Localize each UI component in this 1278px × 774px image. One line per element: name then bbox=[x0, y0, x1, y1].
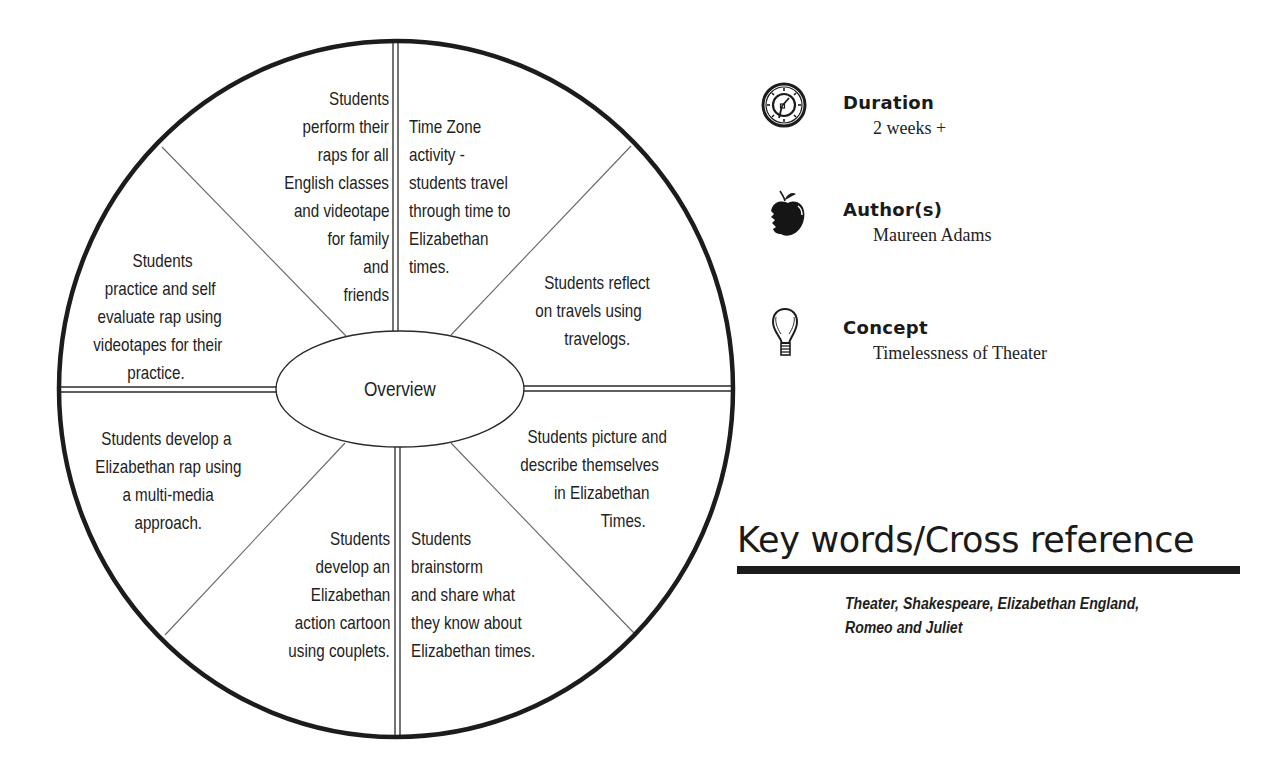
apple-icon bbox=[758, 187, 818, 247]
segment-text-line: action cartoon bbox=[130, 612, 390, 634]
segment-text-line: and share what bbox=[411, 584, 541, 606]
compass-clock-icon bbox=[758, 80, 818, 140]
segment-text-line: students travel bbox=[409, 172, 533, 194]
segment-text-line: times. bbox=[409, 256, 460, 278]
segment-text-line: Students reflect bbox=[467, 272, 727, 294]
segment-text-line: evaluate rap using bbox=[30, 306, 290, 328]
info-concept: Concept Timelessness of Theater bbox=[758, 305, 1178, 375]
segment-text-line: they know about bbox=[411, 612, 549, 634]
segment-text-line: Time Zone bbox=[409, 116, 499, 138]
segment-text-line: Students bbox=[129, 88, 389, 110]
segment-text-line: videotapes for their bbox=[28, 334, 288, 356]
segment-text-line: practice and self bbox=[30, 278, 290, 300]
segment-text-line: Elizabethan bbox=[130, 584, 390, 606]
concept-label: Concept bbox=[843, 317, 928, 338]
segment-text-line: English classes bbox=[129, 172, 389, 194]
segment-text-line: brainstorm bbox=[411, 556, 501, 578]
lightbulb-icon bbox=[758, 305, 818, 365]
duration-value: 2 weeks + bbox=[873, 118, 946, 139]
info-duration: Duration 2 weeks + bbox=[758, 80, 1178, 150]
segment-text-line: activity - bbox=[409, 144, 479, 166]
info-authors: Author(s) Maureen Adams bbox=[758, 187, 1178, 257]
segment-text-line: through time to bbox=[409, 200, 536, 222]
authors-value: Maureen Adams bbox=[873, 225, 991, 246]
segment-text-line: Students bbox=[411, 528, 486, 550]
segment-text-line: describe themselves bbox=[460, 454, 720, 476]
segment-text-line: on travels using bbox=[459, 300, 719, 322]
keywords-underline-bar bbox=[737, 566, 1240, 574]
segment-text-line: practice. bbox=[26, 362, 286, 384]
segment-text-line: Elizabethan bbox=[409, 228, 508, 250]
segment-text-line: Times. bbox=[493, 510, 753, 532]
concept-value: Timelessness of Theater bbox=[873, 343, 1047, 364]
segment-text-line: raps for all bbox=[129, 144, 389, 166]
keywords-heading: Key words/Cross reference bbox=[737, 520, 1194, 560]
segment-text-line: for family bbox=[129, 228, 389, 250]
duration-label: Duration bbox=[843, 92, 934, 113]
segment-text-line: Elizabethan rap using bbox=[38, 456, 298, 478]
keywords-line: Romeo and Juliet bbox=[845, 616, 1265, 640]
segment-text-line: Students picture and bbox=[467, 426, 727, 448]
segment-text-line: travelogs. bbox=[467, 328, 727, 350]
segment-text-line: Elizabethan times. bbox=[411, 640, 566, 662]
segment-text-line: perform their bbox=[129, 116, 389, 138]
keywords-list: Theater, Shakespeare, Elizabethan Englan… bbox=[845, 592, 1265, 640]
segment-text-line: Students bbox=[32, 250, 292, 272]
segment-text-line: and videotape bbox=[129, 200, 389, 222]
segment-text-line: using couplets. bbox=[130, 640, 390, 662]
segment-text-line: approach. bbox=[38, 512, 298, 534]
keywords-line: Theater, Shakespeare, Elizabethan Englan… bbox=[845, 592, 1265, 616]
authors-label: Author(s) bbox=[843, 199, 942, 220]
segment-text-line: in Elizabethan bbox=[472, 482, 732, 504]
segment-text-line: develop an bbox=[130, 556, 390, 578]
segment-text-line: a multi-media bbox=[38, 484, 298, 506]
overview-wheel-diagram: Overview Studentsperform theirraps for a… bbox=[0, 0, 780, 774]
center-label: Overview bbox=[300, 377, 500, 401]
segment-text-line: Students develop a bbox=[36, 428, 296, 450]
